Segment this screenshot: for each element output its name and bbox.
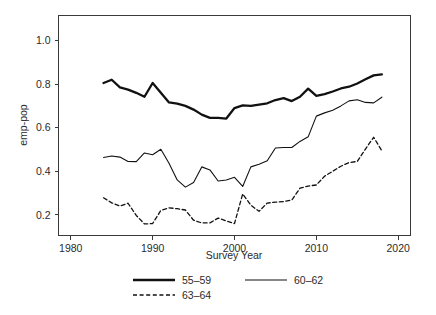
x-axis-title: Survey Year — [206, 249, 263, 261]
x-tick-label: 1990 — [141, 242, 165, 254]
legend-label-60-62: 60–62 — [294, 274, 323, 286]
x-tick-label: 1980 — [59, 242, 83, 254]
y-tick-label: 0.2 — [36, 209, 51, 221]
legend-label-63-64: 63–64 — [182, 289, 211, 301]
y-tick-label: 0.4 — [36, 165, 51, 177]
y-axis-title: emp-pop — [17, 104, 29, 146]
line-chart: 0.20.40.60.81.0 19801990200020102020 Sur… — [0, 0, 436, 315]
y-tick-label: 0.8 — [36, 78, 51, 90]
x-tick-label: 2010 — [305, 242, 329, 254]
chart-figure: 0.20.40.60.81.0 19801990200020102020 Sur… — [0, 0, 436, 315]
y-tick-label: 1.0 — [36, 34, 51, 46]
chart-background — [0, 0, 436, 315]
y-tick-label: 0.6 — [36, 121, 51, 133]
legend-label-55-59: 55–59 — [182, 274, 211, 286]
x-tick-label: 2020 — [387, 242, 411, 254]
